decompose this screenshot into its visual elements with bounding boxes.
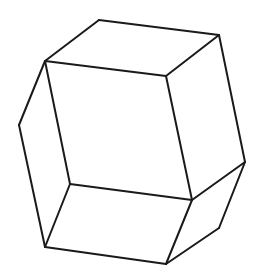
- edge-CE: [19, 61, 45, 125]
- edge-EJ: [19, 125, 45, 247]
- edge-JK: [45, 247, 166, 264]
- edge-CF: [45, 61, 70, 184]
- edge-AC: [45, 20, 99, 61]
- edge-FJ: [45, 184, 70, 247]
- polyhedron-diagram: [0, 0, 262, 280]
- edge-BD: [166, 35, 219, 76]
- edge-AB: [99, 20, 219, 35]
- edge-BH: [219, 35, 245, 162]
- edge-FG: [70, 184, 192, 200]
- edge-CD: [45, 61, 166, 76]
- edge-DG: [166, 76, 192, 200]
